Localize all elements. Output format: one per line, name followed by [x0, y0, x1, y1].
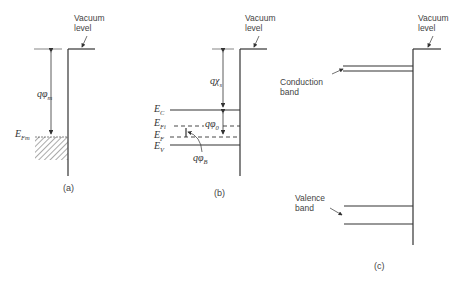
conduction-band-label: Conduction band — [280, 77, 323, 97]
valence-label-line2: band — [295, 203, 325, 213]
phi0-label: qφ0 — [204, 118, 220, 131]
vacuum-pointer-b — [254, 36, 259, 47]
phib-pointer — [188, 132, 202, 152]
phi0-symbol: qφ — [205, 118, 216, 129]
electron-affinity-label: qχs — [210, 75, 222, 88]
affinity-subscript: s — [219, 81, 222, 88]
fermi-level-label-m: EFm — [15, 128, 30, 141]
fermi-subscript: Fm — [21, 134, 30, 141]
work-function-label: qφm — [37, 88, 52, 101]
vacuum-level-label-a: Vacuum level — [74, 13, 105, 33]
caption-b: (b) — [214, 188, 225, 198]
valence-label-line1: Valence — [295, 193, 325, 203]
phib-label: qφB — [193, 152, 208, 165]
affinity-symbol: qχ — [210, 75, 219, 86]
band-diagram-drawing — [0, 0, 460, 281]
ev-subscript: V — [160, 146, 164, 153]
vacuum-pointer-c — [428, 36, 433, 47]
caption-c: (c) — [374, 261, 385, 271]
vacuum-label-line1-a: Vacuum — [74, 13, 105, 23]
conduction-label-line1: Conduction — [280, 77, 323, 87]
panel-a — [34, 36, 95, 176]
panel-b — [170, 36, 267, 176]
vacuum-label-line2-a: level — [74, 23, 105, 33]
vacuum-label-line1-b: Vacuum — [245, 13, 276, 23]
work-function-symbol: qφ — [37, 88, 48, 99]
vacuum-level-label-b: Vacuum level — [245, 13, 276, 33]
panel-c — [330, 36, 441, 245]
work-function-subscript: m — [48, 94, 53, 101]
conduction-label-line2: band — [280, 87, 323, 97]
vacuum-label-line2-b: level — [245, 23, 276, 33]
filled-states-hatch — [35, 137, 68, 160]
phib-subscript: B — [204, 158, 208, 165]
ec-subscript: C — [160, 109, 164, 116]
phi0-subscript: 0 — [216, 124, 219, 131]
caption-a: (a) — [63, 183, 74, 193]
vacuum-pointer-a — [82, 36, 87, 47]
valence-pointer — [330, 208, 342, 215]
valence-band-label: Valence band — [295, 193, 325, 213]
vacuum-label-line1-c: Vacuum — [418, 13, 449, 23]
ev-label: EV — [154, 140, 164, 153]
vacuum-label-line2-c: level — [418, 23, 449, 33]
conduction-pointer — [332, 69, 343, 74]
ec-label: EC — [154, 103, 164, 116]
vacuum-level-label-c: Vacuum level — [418, 13, 449, 33]
phib-symbol: qφ — [193, 152, 204, 163]
